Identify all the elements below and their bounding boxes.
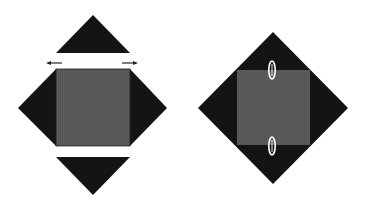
left-arrow-icon [46,61,62,65]
center-square [237,70,310,145]
right-arrow-icon [122,61,138,65]
assembled-figure [198,32,348,184]
bottom-triangle-flap [56,157,130,195]
exploded-figure [18,15,167,195]
right-triangle-flap [130,69,167,146]
diagram-canvas [0,0,366,207]
center-square [56,69,130,146]
left-triangle-flap [18,69,56,146]
top-triangle-flap [56,15,130,53]
